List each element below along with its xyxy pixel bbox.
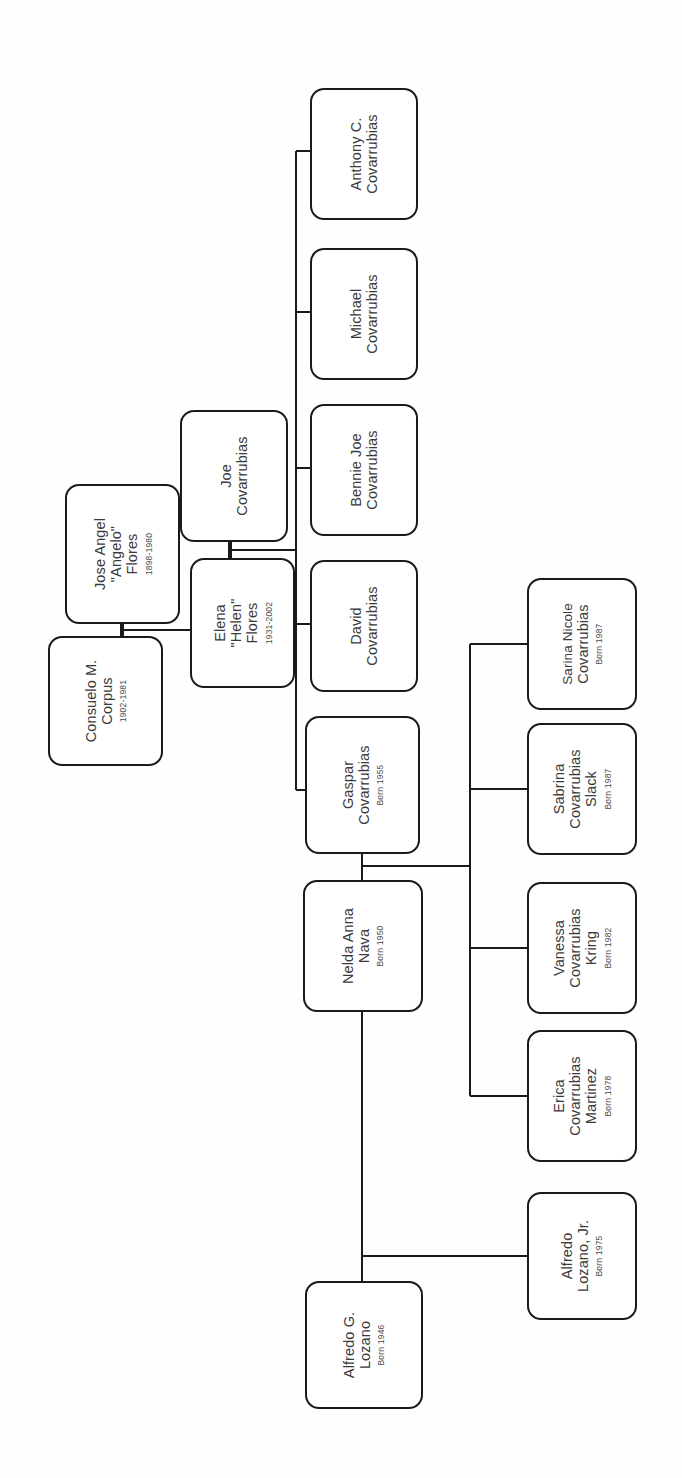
person-dates: Born 1987 — [594, 623, 604, 664]
person-name-line: Flores — [244, 599, 260, 648]
person-label-block: EricaCovarrubiasMartinezBorn 1978 — [551, 1056, 613, 1135]
person-name: Nelda AnnaNava — [340, 908, 372, 984]
person-name-line: Consuelo M. — [83, 660, 99, 743]
person-name: VanessaCovarrubiasKring — [551, 908, 600, 987]
person-node-elena-helen-flores[interactable]: Elena"Helen"Flores1931-2002 — [190, 558, 295, 688]
person-dates: Born 1987 — [603, 768, 613, 809]
person-dates: Born 1950 — [376, 925, 386, 966]
person-name: GasparCovarrubias — [340, 745, 372, 824]
person-node-david-covarrubias[interactable]: DavidCovarrubias — [310, 560, 418, 692]
person-label-block: AlfredoLozano, Jr.Born 1975 — [559, 1220, 605, 1292]
person-node-alfredo-g-lozano[interactable]: Alfredo G.LozanoBorn 1946 — [305, 1281, 423, 1409]
person-dates: Born 1955 — [375, 764, 385, 805]
person-name-line: Elena — [212, 599, 228, 648]
person-name-line: Flores — [124, 518, 140, 590]
person-label-block: Alfredo G.LozanoBorn 1946 — [341, 1312, 387, 1378]
person-name-line: Covarrubias — [567, 1056, 583, 1135]
person-label-block: Elena"Helen"Flores1931-2002 — [212, 599, 274, 648]
person-node-bennie-joe-covarrubias[interactable]: Bennie JoeCovarrubias — [310, 404, 418, 536]
person-name-line: "Helen" — [228, 599, 244, 648]
person-name-line: "Angelo" — [108, 518, 124, 590]
person-name: MichaelCovarrubias — [348, 274, 380, 353]
person-dates: Born 1982 — [603, 927, 613, 968]
person-name-line: Anthony C. — [348, 114, 364, 193]
person-label-block: VanessaCovarrubiasKringBorn 1982 — [551, 908, 613, 987]
person-node-anthony-c-covarrubias[interactable]: Anthony C.Covarrubias — [310, 88, 418, 220]
person-node-gaspar-covarrubias[interactable]: GasparCovarrubiasBorn 1955 — [305, 716, 420, 854]
person-node-michael-covarrubias[interactable]: MichaelCovarrubias — [310, 248, 418, 380]
person-node-nelda-anna-nava[interactable]: Nelda AnnaNavaBorn 1950 — [303, 880, 423, 1012]
person-label-block: GasparCovarrubiasBorn 1955 — [340, 745, 386, 824]
person-name-line: Covarrubias — [364, 114, 380, 193]
person-name-line: Covarrubias — [575, 603, 591, 685]
person-name-line: David — [348, 586, 364, 665]
person-node-jose-angel-flores[interactable]: Jose Angel"Angelo"Flores1898-1980 — [65, 484, 180, 624]
person-name: DavidCovarrubias — [348, 586, 380, 665]
person-name: Anthony C.Covarrubias — [348, 114, 380, 193]
person-name-line: Kring — [584, 908, 600, 987]
person-name-line: Alfredo — [559, 1220, 575, 1292]
person-label-block: MichaelCovarrubias — [348, 274, 380, 353]
person-name-line: Martinez — [584, 1056, 600, 1135]
person-dates: 1898-1980 — [143, 533, 153, 575]
person-dates: 1931-2002 — [263, 602, 273, 644]
person-label-block: Bennie JoeCovarrubias — [348, 430, 380, 509]
family-tree-chart: Anthony C.CovarrubiasMichaelCovarrubiasB… — [0, 0, 682, 1478]
person-node-alfredo-lozano-jr[interactable]: AlfredoLozano, Jr.Born 1975 — [527, 1192, 637, 1320]
person-name-line: Covarrubias — [364, 586, 380, 665]
person-name-line: Joe — [218, 436, 234, 515]
person-node-sabrina-covarrubias-slack[interactable]: SabrinaCovarrubiasSlackBorn 1987 — [527, 723, 637, 855]
person-name: JoeCovarrubias — [218, 436, 250, 515]
person-name-line: Erica — [551, 1056, 567, 1135]
person-name-line: Slack — [584, 749, 600, 828]
person-name-line: Jose Angel — [92, 518, 108, 590]
person-dates: Born 1978 — [603, 1075, 613, 1116]
person-dates: Born 1946 — [377, 1324, 387, 1365]
person-name-line: Nelda Anna — [340, 908, 356, 984]
person-name: EricaCovarrubiasMartinez — [551, 1056, 600, 1135]
person-name-line: Sabrina — [551, 749, 567, 828]
person-name: Consuelo M.Corpus — [83, 660, 115, 743]
person-name-line: Covarrubias — [364, 430, 380, 509]
person-name-line: Lozano, Jr. — [575, 1220, 591, 1292]
person-label-block: Anthony C.Covarrubias — [348, 114, 380, 193]
person-name-line: Alfredo G. — [341, 1312, 357, 1378]
person-label-block: DavidCovarrubias — [348, 586, 380, 665]
person-label-block: JoeCovarrubias — [218, 436, 250, 515]
person-name-line: Sarina Nicole — [560, 603, 575, 685]
person-name: AlfredoLozano, Jr. — [559, 1220, 591, 1292]
person-name: Jose Angel"Angelo"Flores — [92, 518, 141, 590]
person-label-block: SabrinaCovarrubiasSlackBorn 1987 — [551, 749, 613, 828]
person-dates: 1902-1981 — [118, 680, 128, 722]
person-name: Bennie JoeCovarrubias — [348, 430, 380, 509]
person-name-line: Lozano — [357, 1312, 373, 1378]
person-label-block: Sarina NicoleCovarrubiasBorn 1987 — [560, 603, 605, 685]
person-dates: Born 1975 — [595, 1235, 605, 1276]
person-name-line: Michael — [348, 274, 364, 353]
person-name-line: Covarrubias — [356, 745, 372, 824]
person-node-vanessa-covarrubias-kring[interactable]: VanessaCovarrubiasKringBorn 1982 — [527, 882, 637, 1014]
person-node-joe-covarrubias[interactable]: JoeCovarrubias — [180, 410, 288, 542]
person-name-line: Vanessa — [551, 908, 567, 987]
person-name-line: Covarrubias — [567, 908, 583, 987]
person-name-line: Covarrubias — [364, 274, 380, 353]
person-name-line: Covarrubias — [567, 749, 583, 828]
person-name: Elena"Helen"Flores — [212, 599, 261, 648]
person-label-block: Consuelo M.Corpus1902-1981 — [83, 660, 129, 743]
person-name-line: Covarrubias — [234, 436, 250, 515]
person-label-block: Jose Angel"Angelo"Flores1898-1980 — [92, 518, 154, 590]
person-name: SabrinaCovarrubiasSlack — [551, 749, 600, 828]
person-node-consuelo-m-corpus[interactable]: Consuelo M.Corpus1902-1981 — [48, 636, 163, 766]
person-name: Alfredo G.Lozano — [341, 1312, 373, 1378]
person-node-sarina-nicole-covarrubias[interactable]: Sarina NicoleCovarrubiasBorn 1987 — [527, 578, 637, 710]
person-name-line: Bennie Joe — [348, 430, 364, 509]
person-node-erica-covarrubias-martinez[interactable]: EricaCovarrubiasMartinezBorn 1978 — [527, 1030, 637, 1162]
person-label-block: Nelda AnnaNavaBorn 1950 — [340, 908, 386, 984]
person-name: Sarina NicoleCovarrubias — [560, 603, 591, 685]
person-name-line: Corpus — [99, 660, 115, 743]
person-name-line: Nava — [356, 908, 372, 984]
person-name-line: Gaspar — [340, 745, 356, 824]
